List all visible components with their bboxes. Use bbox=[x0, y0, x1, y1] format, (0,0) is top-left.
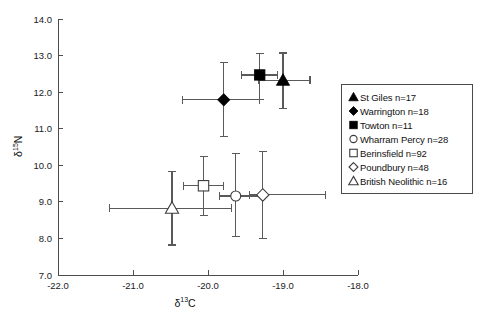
x-tick-label: -22.0 bbox=[47, 280, 69, 291]
data-point-berinsfield bbox=[183, 157, 224, 216]
legend-item: Poundbury n=48 bbox=[347, 160, 468, 174]
data-point-st-giles bbox=[259, 53, 310, 109]
legend-marker-diamond-open-icon bbox=[347, 161, 360, 173]
marker-diamond-filled bbox=[218, 94, 230, 106]
marker-square-filled bbox=[255, 70, 265, 80]
data-point-towton bbox=[242, 54, 278, 100]
legend-item-label: Poundbury n=48 bbox=[360, 162, 429, 173]
marker-square-filled bbox=[350, 121, 357, 128]
marker-diamond-open bbox=[257, 189, 269, 201]
y-tick-label: 14.0 bbox=[34, 14, 53, 25]
legend-item-label: Berinsfield n=92 bbox=[360, 148, 427, 159]
legend-item: Warrington n=18 bbox=[347, 104, 468, 118]
legend-item: Wharram Percy n=28 bbox=[347, 132, 468, 146]
marker-diamond-filled bbox=[349, 107, 358, 116]
x-tick-label: -18.0 bbox=[347, 280, 369, 291]
y-axis-title-superscript: 15 bbox=[12, 143, 19, 151]
y-tick-label: 7.0 bbox=[39, 270, 52, 281]
legend-item-label: Wharram Percy n=28 bbox=[360, 134, 448, 145]
data-point-warrington bbox=[183, 63, 260, 137]
x-axis-title-element: C bbox=[188, 297, 196, 309]
y-tick-label: 10.0 bbox=[34, 160, 53, 171]
x-tick-label: -21.0 bbox=[122, 280, 144, 291]
y-tick-label: 12.0 bbox=[34, 87, 53, 98]
legend-marker-square-open-icon bbox=[347, 147, 360, 159]
x-axis-title-superscript: 13 bbox=[180, 296, 188, 303]
marker-triangle-open bbox=[165, 202, 178, 214]
legend-marker-circle-open-icon bbox=[347, 133, 360, 145]
data-point-poundbury bbox=[249, 151, 326, 238]
marker-triangle-open bbox=[349, 176, 359, 184]
marker-triangle-filled bbox=[276, 74, 289, 86]
axes: -22.0-21.0-20.0-19.0-18.07.08.09.010.011… bbox=[34, 14, 369, 292]
legend-item-label: Warrington n=18 bbox=[360, 106, 429, 117]
data-series-group bbox=[110, 53, 326, 245]
legend-item-label: Towton n=11 bbox=[360, 120, 412, 131]
legend-item-label: British Neolithic n=16 bbox=[360, 176, 447, 187]
legend-marker-diamond-filled-icon bbox=[347, 105, 360, 117]
y-axis-title-element: N bbox=[12, 136, 24, 144]
x-tick-label: -20.0 bbox=[197, 280, 219, 291]
marker-square-open bbox=[350, 149, 357, 156]
marker-square-open bbox=[198, 181, 208, 191]
legend-marker-triangle-filled-icon bbox=[347, 91, 360, 103]
y-axis-title-delta: δ bbox=[12, 151, 24, 157]
legend-marker-square-filled-icon bbox=[347, 119, 360, 131]
legend-marker-triangle-open-icon bbox=[347, 175, 360, 187]
marker-triangle-filled bbox=[349, 92, 359, 100]
legend-item: Berinsfield n=92 bbox=[347, 146, 468, 160]
y-axis-title: δ15N bbox=[12, 116, 25, 176]
legend-item: British Neolithic n=16 bbox=[347, 174, 468, 188]
y-tick-label: 8.0 bbox=[39, 233, 52, 244]
y-tick-label: 9.0 bbox=[39, 196, 52, 207]
legend-item-label: St Giles n=17 bbox=[360, 92, 416, 103]
y-tick-label: 11.0 bbox=[34, 123, 52, 134]
legend: St Giles n=17Warrington n=18Towton n=11W… bbox=[341, 84, 473, 194]
legend-item: Towton n=11 bbox=[347, 118, 468, 132]
y-tick-label: 13.0 bbox=[34, 50, 53, 61]
data-point-british-neolithic bbox=[110, 172, 232, 245]
x-axis-title: δ13C bbox=[0, 296, 370, 309]
x-tick-label: -19.0 bbox=[272, 280, 294, 291]
marker-diamond-open bbox=[349, 163, 358, 172]
legend-item: St Giles n=17 bbox=[347, 90, 468, 104]
marker-circle-open bbox=[231, 191, 241, 201]
scatter-chart: -22.0-21.0-20.0-19.0-18.07.08.09.010.011… bbox=[0, 0, 481, 327]
marker-circle-open bbox=[350, 135, 357, 142]
